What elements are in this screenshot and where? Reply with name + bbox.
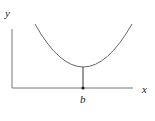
parabola-curve [35,24,132,67]
diagram: y x b [0,0,155,121]
y-axis-label: y [4,7,10,19]
minimum-label: b [80,93,86,105]
x-axis-label: x [141,83,147,95]
minimum-point [81,86,84,89]
